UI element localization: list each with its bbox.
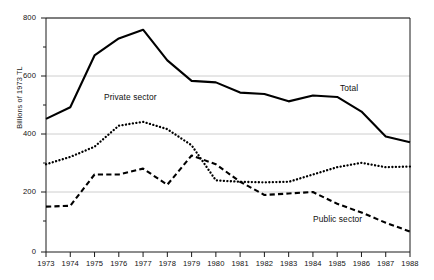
y-tick-label-600: 600 xyxy=(10,71,36,80)
y-tick-label-400: 400 xyxy=(10,129,36,138)
gridlines xyxy=(46,18,410,192)
series-label-private-sector: Private sector xyxy=(104,92,157,102)
series-label-total: Total xyxy=(340,83,358,93)
y-tick-label-0: 0 xyxy=(10,247,36,256)
x-axis-ticks xyxy=(46,252,410,257)
chart-figure: Billions of 1973 TL 800 600 400 200 0 19… xyxy=(0,0,434,280)
series-label-public-sector: Public sector xyxy=(313,214,362,224)
data-series xyxy=(46,30,410,232)
x-tick-label-1988: 1988 xyxy=(393,259,427,268)
y-tick-label-800: 800 xyxy=(10,13,36,22)
line-chart-plot xyxy=(0,0,434,280)
y-axis-ticks xyxy=(41,18,46,252)
y-tick-label-200: 200 xyxy=(10,187,36,196)
